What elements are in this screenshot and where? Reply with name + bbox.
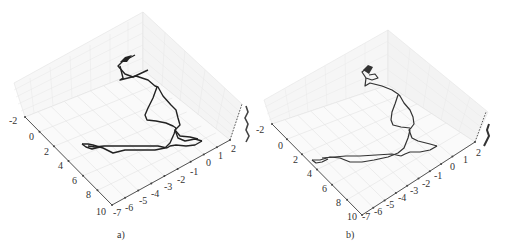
svg-text:0: 0 xyxy=(206,157,211,168)
svg-text:0: 0 xyxy=(450,161,455,172)
svg-text:-7: -7 xyxy=(362,211,370,222)
caption-a: a) xyxy=(117,229,125,241)
svg-text:10: 10 xyxy=(96,206,106,217)
svg-text:0: 0 xyxy=(278,140,283,151)
z-tick-labels xyxy=(245,106,249,142)
svg-text:0: 0 xyxy=(29,131,34,142)
svg-text:-1: -1 xyxy=(434,170,442,181)
svg-text:2: 2 xyxy=(293,154,298,165)
svg-text:-6: -6 xyxy=(125,202,133,213)
svg-text:-7: -7 xyxy=(113,207,121,218)
caption-b: b) xyxy=(346,229,354,241)
svg-text:-3: -3 xyxy=(410,185,418,196)
svg-text:-1: -1 xyxy=(190,166,198,177)
svg-text:6: 6 xyxy=(72,175,77,186)
svg-text:8: 8 xyxy=(86,189,91,200)
svg-text:-5: -5 xyxy=(139,195,147,206)
svg-text:-5: -5 xyxy=(386,199,394,210)
svg-text:-4: -4 xyxy=(151,188,159,199)
svg-text:4: 4 xyxy=(307,168,312,179)
svg-text:6: 6 xyxy=(322,183,327,194)
svg-text:-2: -2 xyxy=(177,174,185,185)
figure: -2 0 2 4 6 8 10 -7 -6 -5 -4 -3 -2 -1 0 1… xyxy=(0,0,508,249)
svg-text:-6: -6 xyxy=(374,206,382,217)
svg-text:1: 1 xyxy=(218,150,223,161)
svg-text:4: 4 xyxy=(58,160,63,171)
svg-text:2: 2 xyxy=(476,147,481,158)
svg-text:-2: -2 xyxy=(256,124,264,135)
svg-text:-4: -4 xyxy=(398,192,406,203)
svg-text:8: 8 xyxy=(336,197,341,208)
svg-text:-3: -3 xyxy=(164,181,172,192)
svg-text:2: 2 xyxy=(231,143,236,154)
panel-b: -2 0 2 4 6 8 10 -7 -6 -5 -4 -3 -2 -1 0 1… xyxy=(256,30,489,241)
panel-a: -2 0 2 4 6 8 10 -7 -6 -5 -4 -3 -2 -1 0 1… xyxy=(9,12,249,241)
svg-text:-2: -2 xyxy=(9,115,17,126)
svg-text:2: 2 xyxy=(44,146,49,157)
svg-text:10: 10 xyxy=(347,211,357,222)
svg-text:-2: -2 xyxy=(422,178,430,189)
svg-text:1: 1 xyxy=(463,154,468,165)
z-tick-labels xyxy=(484,124,489,146)
